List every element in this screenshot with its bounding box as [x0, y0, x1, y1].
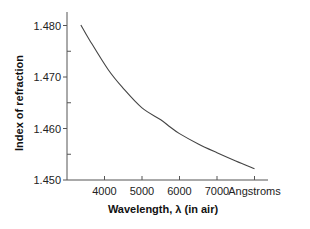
x-tick-label: 4000	[92, 185, 116, 197]
y-ticks: 1.4501.4601.4701.480	[33, 20, 71, 187]
series-line-index-of-refraction	[81, 25, 255, 169]
axes	[67, 12, 268, 180]
x-unit-label: Angstroms	[228, 185, 281, 197]
y-tick-label: 1.460	[33, 123, 61, 135]
x-tick-label: 7000	[205, 185, 229, 197]
y-tick-label: 1.480	[33, 20, 61, 32]
chart: 1.4501.4601.4701.480 4000500060007000Ang…	[0, 0, 310, 229]
y-axis-title: Index of refraction	[13, 55, 25, 151]
x-tick-label: 6000	[167, 185, 191, 197]
x-axis-title: Wavelength, λ (in air)	[108, 203, 219, 215]
x-tick-label: 5000	[130, 185, 154, 197]
y-tick-label: 1.470	[33, 71, 61, 83]
x-ticks: 4000500060007000Angstroms	[92, 176, 281, 197]
y-tick-label: 1.450	[33, 174, 61, 186]
